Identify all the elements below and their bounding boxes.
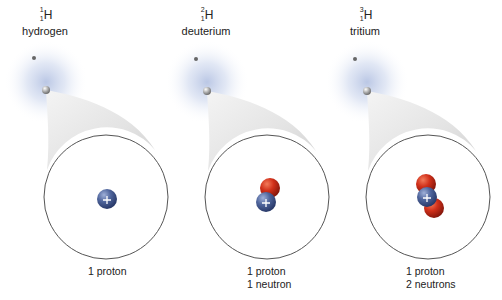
element-symbol: H bbox=[205, 8, 214, 22]
isotope-title-deuterium: 2 1 H deuterium bbox=[161, 9, 251, 38]
atom-sphere-icon bbox=[363, 87, 371, 95]
element-symbol: H bbox=[364, 8, 373, 22]
atomic-number: 1 bbox=[201, 15, 205, 23]
caption-line: 2 neutrons bbox=[406, 278, 456, 291]
isotope-title-hydrogen: 1 1 H hydrogen bbox=[0, 9, 90, 38]
isotope-name: tritium bbox=[320, 25, 410, 38]
mass-number: 1 bbox=[40, 6, 44, 14]
isotope-symbol: 3 1 H bbox=[320, 9, 410, 23]
caption-line: 1 neutron bbox=[247, 278, 291, 291]
caption-line: 1 proton bbox=[88, 265, 127, 278]
isotope-name: hydrogen bbox=[0, 25, 90, 38]
electron-icon bbox=[194, 57, 198, 61]
isotope-name: deuterium bbox=[161, 25, 251, 38]
isotope-diagram: 1 1 H hydrogen 2 1 H deuterium 3 1 H tri… bbox=[0, 0, 502, 300]
atom-sphere-icon bbox=[42, 86, 50, 94]
proton-icon bbox=[97, 189, 117, 209]
proton-icon bbox=[417, 187, 437, 207]
caption-tritium: 1 proton 2 neutrons bbox=[406, 265, 456, 291]
mass-number: 2 bbox=[201, 6, 205, 14]
proton-icon bbox=[256, 192, 276, 212]
caption-deuterium: 1 proton 1 neutron bbox=[247, 265, 291, 291]
mass-number: 3 bbox=[360, 6, 364, 14]
element-symbol: H bbox=[44, 8, 53, 22]
deuterium-atom bbox=[165, 40, 329, 259]
caption-line: 1 proton bbox=[247, 265, 291, 278]
tritium-atom bbox=[325, 40, 490, 259]
caption-hydrogen: 1 proton bbox=[88, 265, 127, 278]
atomic-number: 1 bbox=[360, 15, 364, 23]
isotope-symbol: 2 1 H bbox=[161, 9, 251, 23]
atom-sphere-icon bbox=[203, 87, 211, 95]
electron-icon bbox=[32, 56, 36, 60]
isotope-title-tritium: 3 1 H tritium bbox=[320, 9, 410, 38]
caption-line: 1 proton bbox=[406, 265, 456, 278]
atomic-number: 1 bbox=[40, 15, 44, 23]
hydrogen-atom bbox=[4, 40, 168, 259]
electron-icon bbox=[353, 57, 357, 61]
isotope-symbol: 1 1 H bbox=[0, 9, 90, 23]
diagram-artwork bbox=[0, 0, 502, 300]
